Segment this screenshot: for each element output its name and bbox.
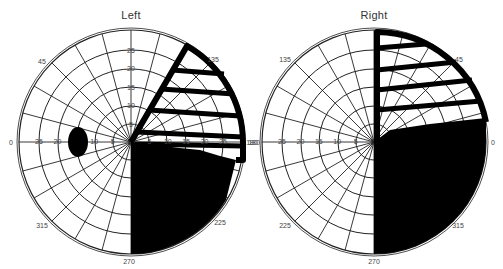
eccentricity-label: 20 — [54, 138, 62, 145]
angle-label: 225 — [214, 219, 226, 226]
eccentricity-label: 25 — [278, 138, 286, 145]
angle-label: 315 — [452, 222, 464, 229]
meridian-line — [318, 45, 374, 142]
angle-label: 45 — [38, 58, 46, 65]
eccentricity-label: 5 — [129, 121, 133, 128]
angle-label: 225 — [279, 222, 291, 229]
angle-label: 0 — [491, 139, 495, 146]
eccentricity-label: 5 — [354, 138, 358, 145]
meridian-line — [75, 45, 131, 142]
eccentricity-label: 15 — [182, 138, 190, 145]
eccentricity-label: 25 — [35, 138, 43, 145]
angle-label: 135 — [207, 56, 219, 63]
eccentricity-label: 10 — [90, 138, 98, 145]
meridian-line — [75, 142, 131, 239]
meridian-line — [277, 86, 374, 142]
eccentricity-label: 25 — [127, 47, 135, 54]
eccentricity-label: 10 — [333, 138, 341, 145]
meridian-line — [52, 63, 131, 142]
meridian-line — [52, 142, 131, 221]
eccentricity-label: 15 — [315, 138, 323, 145]
angle-label: 135 — [279, 56, 291, 63]
left-solid-defect — [131, 142, 236, 254]
eccentricity-label: 20 — [201, 138, 209, 145]
visual-field-diagram: 4513501803152252701354518002253152702520… — [0, 0, 503, 269]
angle-label: 270 — [123, 258, 135, 265]
angle-label: 180 — [246, 139, 258, 146]
eccentricity-label: 10 — [164, 138, 172, 145]
eccentricity-label: 5 — [147, 138, 151, 145]
left-blind-spot — [68, 127, 88, 157]
eccentricity-label: 15 — [127, 84, 135, 91]
angle-label: 45 — [455, 56, 463, 63]
eccentricity-label: 5 — [111, 138, 115, 145]
meridian-line — [318, 142, 374, 239]
right-solid-defect — [374, 118, 486, 254]
eccentricity-label: 10 — [127, 102, 135, 109]
angle-label: 270 — [368, 258, 380, 265]
meridian-line — [295, 142, 374, 221]
eccentricity-label: 25 — [219, 138, 227, 145]
meridian-line — [277, 142, 374, 198]
angle-label: 315 — [36, 222, 48, 229]
eccentricity-label: 20 — [297, 138, 305, 145]
meridian-line — [295, 63, 374, 142]
angle-label: 0 — [9, 139, 13, 146]
eccentricity-label: 20 — [127, 65, 135, 72]
